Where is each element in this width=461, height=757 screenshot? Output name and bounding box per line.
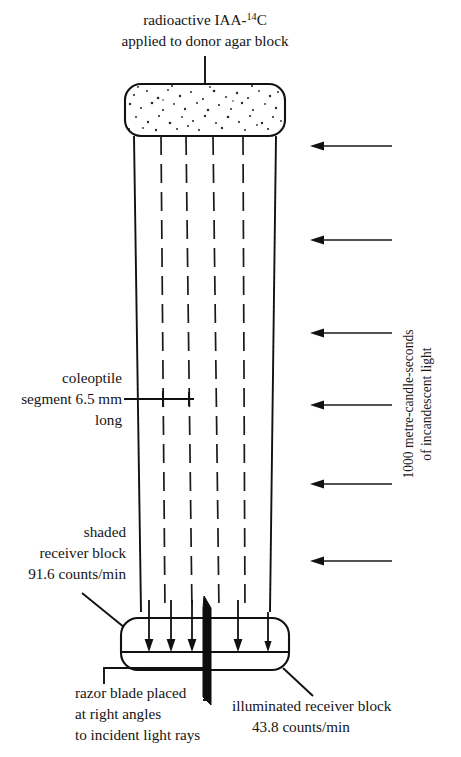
shaded-block-line-1: shaded xyxy=(84,523,127,540)
coleoptile-right-wall xyxy=(270,136,276,612)
donor-agar-block xyxy=(125,84,285,136)
title-radioactive: radioactive xyxy=(143,11,214,28)
coleoptile-label: coleoptile segment 6.5 mm long xyxy=(21,369,194,428)
coleoptile-inner-line-3 xyxy=(213,136,219,612)
illuminated-block-line-2: 43.8 counts/min xyxy=(252,718,350,735)
title-iaa: IAA xyxy=(214,11,241,28)
light-source-label: 1000 metre-candle-seconds of incandescen… xyxy=(401,329,434,478)
coleoptile-inner-line-4 xyxy=(243,136,245,612)
razor-blade xyxy=(203,596,211,705)
coleoptile-segment xyxy=(134,136,276,612)
light-arrow-4 xyxy=(310,401,392,410)
razor-blade-line-3: to incident light rays xyxy=(75,726,200,743)
razor-blade-line-1: razor blade placed xyxy=(75,684,187,701)
title-carbon: C xyxy=(257,11,267,28)
coleoptile-label-line-2: segment 6.5 mm xyxy=(21,390,122,407)
title-isotope-number: 14 xyxy=(247,11,257,22)
light-arrow-2 xyxy=(310,236,392,245)
coleoptile-label-line-3: long xyxy=(95,411,122,428)
title-line-1: radioactive IAA-14C xyxy=(143,11,267,28)
coleoptile-inner-line-2 xyxy=(186,136,192,612)
shaded-block-line-2: receiver block xyxy=(40,544,127,561)
illuminated-block-line-1: illuminated receiver block xyxy=(232,697,392,714)
light-arrow-1 xyxy=(310,142,392,151)
diagram-canvas: radioactive IAA-14C applied to donor aga… xyxy=(0,0,461,757)
illuminated-block-label: illuminated receiver block 43.8 counts/m… xyxy=(232,668,392,735)
title-block: radioactive IAA-14C applied to donor aga… xyxy=(121,11,288,49)
light-arrow-6 xyxy=(310,557,392,566)
shaded-block-line-3: 91.6 counts/min xyxy=(28,565,126,582)
illuminated-block-leader-line xyxy=(283,668,313,696)
coleoptile-label-line-1: coleoptile xyxy=(62,369,122,386)
phototropism-diagram: radioactive IAA-14C applied to donor aga… xyxy=(0,0,461,757)
coleoptile-left-wall xyxy=(134,136,141,612)
light-arrow-5 xyxy=(310,480,392,489)
incident-light-arrows xyxy=(310,142,392,566)
light-arrow-3 xyxy=(310,329,392,338)
coleoptile-inner-line-1 xyxy=(161,136,165,612)
light-source-line-1: 1000 metre-candle-seconds xyxy=(401,329,416,478)
razor-blade-line-2: at right angles xyxy=(75,705,161,722)
title-line-2: applied to donor agar block xyxy=(121,32,288,49)
razor-blade-label: razor blade placed at right angles to in… xyxy=(75,668,203,743)
light-source-line-2: of incandescent light xyxy=(419,347,434,460)
razor-blade-body xyxy=(203,596,211,705)
